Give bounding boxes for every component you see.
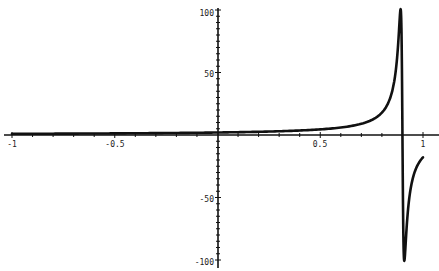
x-tick-label: -1 (7, 140, 17, 149)
x-tick-label: 0.5 (313, 140, 328, 149)
y-tick-label: -50 (200, 195, 215, 204)
x-tick-label: 1 (421, 140, 426, 149)
y-tick-label: 50 (204, 70, 214, 79)
x-tick-label: -0.5 (105, 140, 124, 149)
y-tick-label: -100 (195, 258, 214, 267)
y-tick-label: 100 (200, 9, 215, 18)
plot-area: -1 -0.5 0.5 1 100 50 -50 -100 (0, 0, 439, 271)
